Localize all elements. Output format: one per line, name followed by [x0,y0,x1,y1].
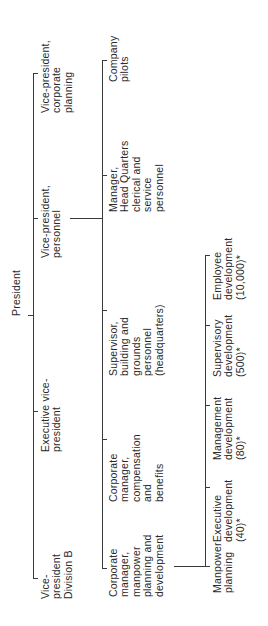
node-president: President [11,270,22,316]
node-vp-division-b: Vice- president Division B [40,550,74,599]
node-label-line: personnel [51,185,62,258]
level3-bracket-line [205,255,206,567]
node-label-line: planning [63,40,74,113]
node-label-line: planning and [142,534,153,597]
node-label: President [11,270,22,316]
tick-executive-development [205,487,210,488]
node-corp-manager-manpower: Corporate manager, manpower planning and… [108,534,165,597]
vp-personnel-connector [70,218,102,219]
node-label-line: benefits [154,434,165,502]
tick-supervisor-building [102,310,107,311]
node-label-line: service [142,141,153,212]
node-label-line: president [51,378,62,452]
tick-supervisory-development [205,325,210,326]
node-label-line: Division B [63,550,74,599]
tick-vp-corporate-planning [33,73,38,74]
president-tick [28,315,33,316]
node-manpower-planning: Manpower planning [212,542,235,593]
node-label-line: (500)* [235,315,246,377]
node-label-line: pilots [119,36,130,82]
node-label-line: planning [223,542,234,593]
node-supervisory-development: Supervisory development (500)* [212,315,246,377]
node-label-line: personnel [142,304,153,376]
tick-employee-development [205,255,210,256]
node-label-line: (10,000)* [235,238,246,300]
node-executive-development: Executive development (40)* [212,480,246,542]
node-label-line: personnel [154,141,165,212]
manpower-connector [174,566,205,567]
node-corp-manager-compensation: Corporate manager, compensation and bene… [108,434,165,502]
node-label-line: (40)* [235,480,246,542]
node-company-pilots: Company pilots [108,36,131,82]
node-label-line: development [154,534,165,597]
node-management-development: Management development (80)* [212,397,246,460]
tick-vp-personnel [33,218,38,219]
node-manager-hq: Manager, Head Quarters clerical and serv… [108,141,165,212]
level2-bracket-line [102,60,103,569]
tick-manpower-planning [205,566,210,567]
node-vp-personnel: Vice-president, personnel [40,185,63,258]
level1-bracket-line [33,73,34,579]
tick-executive-vp [33,411,38,412]
tick-management-development [205,405,210,406]
tick-vp-division-b [33,578,38,579]
node-label-line: (headquarters) [154,304,165,376]
node-employee-development: Employee development (10,000)* [212,238,246,300]
node-label-line: (80)* [235,397,246,460]
tick-corp-manager-compensation [102,439,107,440]
node-vp-corporate-planning: Vice-president, corporate planning [40,40,74,113]
node-executive-vp: Executive vice- president [40,378,63,452]
node-label-line: and [142,434,153,502]
node-supervisor-building: Supervisor, building and grounds personn… [108,304,165,376]
